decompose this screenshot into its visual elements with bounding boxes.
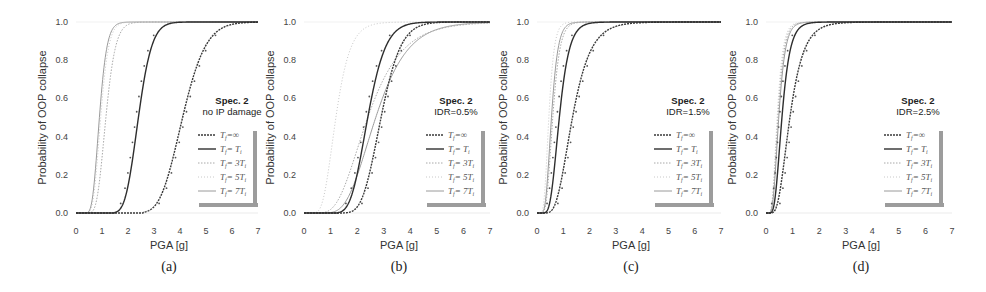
legend-entry: Tf= 7Ti [906, 186, 933, 197]
legend-entry: Tf= 3Ti [448, 158, 475, 169]
legend: Tf=∞Tf= TiTf= 3TiTf= 5TiTf= 7Ti [654, 130, 714, 207]
data-point [175, 157, 177, 159]
y-tick-label: 0.8 [55, 55, 68, 65]
legend-entry: Tf= 5Ti [906, 172, 933, 183]
curve-series-4 [537, 22, 721, 213]
legend-entry: Tf= 7Ti [220, 186, 247, 197]
x-tick-label: 6 [461, 226, 466, 236]
curve-series-2 [76, 22, 258, 213]
y-tick-label: 0.0 [745, 208, 758, 218]
data-point [375, 157, 377, 159]
data-point [143, 65, 145, 67]
data-point [549, 187, 551, 189]
data-point [603, 34, 605, 36]
panel-a: 0.00.20.40.60.81.001234567PGA [g]Probabi… [36, 17, 261, 275]
x-tick-label: 5 [203, 226, 208, 236]
x-tick-label: 2 [817, 226, 822, 236]
legend-entry: Tf= 3Ti [676, 158, 703, 169]
y-tick-label: 0.2 [55, 170, 68, 180]
data-point [140, 80, 142, 82]
curve-series-2 [766, 22, 952, 213]
legend: Tf=∞Tf= TiTf= 3TiTf= 5TiTf= 7Ti [884, 130, 944, 207]
legend-entry: Tf= 7Ti [448, 186, 475, 197]
data-point [572, 126, 574, 128]
curve-series-3 [537, 22, 721, 213]
data-point [784, 65, 786, 67]
y-tick-label: 0.0 [283, 208, 296, 218]
y-tick-label: 0.0 [516, 208, 529, 218]
y-tick-label: 1.0 [516, 17, 529, 27]
y-tick-label: 0.6 [516, 93, 529, 103]
legend-subtitle: no IP damage [203, 106, 262, 117]
data-point [354, 172, 356, 174]
legend-entry: Tf= 3Ti [220, 158, 247, 169]
y-tick-label: 0.8 [516, 55, 529, 65]
y-tick-label: 0.0 [55, 208, 68, 218]
data-point [771, 203, 773, 205]
data-point [371, 172, 373, 174]
legend-entry: Tf= 5Ti [220, 172, 247, 183]
y-tick-label: 1.0 [55, 17, 68, 27]
curve-series-1 [76, 22, 258, 213]
data-point [189, 96, 191, 98]
legend-subtitle: IDR=2.5% [896, 106, 940, 117]
data-point [778, 126, 780, 128]
data-point [550, 172, 552, 174]
data-point [782, 80, 784, 82]
data-point [788, 141, 790, 143]
legend-entry: Tf= Ti [220, 144, 242, 155]
data-point [797, 80, 799, 82]
data-point [194, 80, 196, 82]
legend-subtitle: IDR=1.5% [666, 106, 710, 117]
y-tick-label: 0.2 [516, 170, 529, 180]
data-point [368, 96, 370, 98]
data-point [578, 96, 580, 98]
data-point [136, 111, 138, 113]
data-point [367, 187, 369, 189]
x-tick-label: 4 [408, 226, 413, 236]
data-point [389, 34, 391, 36]
x-tick-label: 0 [763, 226, 768, 236]
x-tick-label: 7 [718, 226, 723, 236]
x-axis-label: PGA [g] [150, 239, 188, 251]
x-tick-label: 4 [177, 226, 182, 236]
x-tick-label: 5 [666, 226, 671, 236]
x-tick-label: 7 [255, 226, 260, 236]
data-point [791, 34, 793, 36]
data-point [198, 65, 200, 67]
x-tick-label: 0 [301, 226, 306, 236]
data-point [780, 96, 782, 98]
data-point [205, 50, 207, 52]
y-tick-label: 0.6 [283, 93, 296, 103]
data-point [395, 65, 397, 67]
y-axis-label: Probability of OOP collapse [726, 50, 738, 184]
data-point [365, 111, 367, 113]
x-tick-label: 7 [949, 226, 954, 236]
legend-shadow [655, 203, 714, 207]
data-point [215, 34, 217, 36]
data-point [372, 80, 374, 82]
x-tick-label: 6 [692, 226, 697, 236]
data-point [586, 65, 588, 67]
data-point [784, 172, 786, 174]
data-point [357, 157, 359, 159]
x-tick-label: 2 [125, 226, 130, 236]
panel-b: 0.00.20.40.60.81.001234567PGA [g]Probabi… [264, 17, 493, 275]
data-point [158, 203, 160, 205]
data-point [557, 111, 559, 113]
x-tick-label: 6 [229, 226, 234, 236]
legend-entry: Tf= 5Ti [676, 172, 703, 183]
x-tick-label: 7 [487, 226, 492, 236]
x-tick-label: 4 [870, 226, 875, 236]
data-point [779, 203, 781, 205]
data-point [786, 157, 788, 159]
y-axis-label: Probability of OOP collapse [497, 50, 509, 184]
curve-series-1 [304, 22, 490, 213]
data-point [790, 126, 792, 128]
panel-c: 0.00.20.40.60.81.001234567PGA [g]Probabi… [497, 17, 724, 275]
data-point [795, 96, 797, 98]
legend: Tf=∞Tf= TiTf= 3TiTf= 5TiTf= 7Ti [426, 130, 486, 207]
data-point [558, 96, 560, 98]
curve-series-1 [766, 22, 952, 213]
data-point [570, 141, 572, 143]
